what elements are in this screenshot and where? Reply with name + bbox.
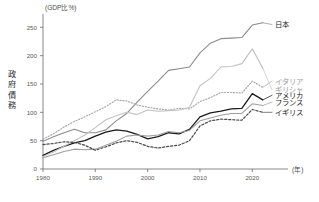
x-tick-label: 1990 xyxy=(88,174,102,181)
series-label-フランス: フランス xyxy=(275,98,303,107)
y-axis-title-char: 務 xyxy=(8,100,17,110)
series-line-4 xyxy=(43,104,263,158)
y-tick-label: 200 xyxy=(27,52,38,59)
x-tick-label: 1980 xyxy=(36,174,50,181)
series-label-日本: 日本 xyxy=(275,20,290,29)
series-line-0 xyxy=(43,23,263,141)
chart-canvas: 05010015020025019801990200020102020 日本アメ… xyxy=(0,0,319,202)
y-axis-unit-label: (GDP比%) xyxy=(45,3,77,12)
x-axis-unit-label: (年) xyxy=(292,165,303,174)
series-label-イギリス: イギリス xyxy=(275,108,303,117)
y-tick-label: 50 xyxy=(30,137,37,144)
series-group xyxy=(43,23,263,158)
series-leader-0 xyxy=(263,23,272,25)
y-tick-label: 250 xyxy=(27,24,38,31)
series-leader-4 xyxy=(263,102,272,105)
series-line-1 xyxy=(43,94,263,156)
series-label-ギリシャ: ギリシャ xyxy=(275,85,303,94)
gdp-debt-line-chart: 05010015020025019801990200020102020 日本アメ… xyxy=(0,0,319,202)
y-tick-label: 100 xyxy=(27,109,38,116)
y-axis-title-char: 政 xyxy=(8,69,16,79)
x-tick-label: 2010 xyxy=(193,174,207,181)
x-tick-label: 2020 xyxy=(245,174,259,181)
series-labels-group: 日本アメリカイタリアギリシャフランスイギリス xyxy=(263,20,303,117)
x-tick-label: 2000 xyxy=(141,174,155,181)
y-tick-label: 150 xyxy=(27,80,38,87)
y-axis-title-char: 債 xyxy=(8,90,16,100)
series-line-3 xyxy=(43,49,263,157)
series-leader-1 xyxy=(263,95,272,100)
y-axis-title-char: 府 xyxy=(8,79,16,89)
y-tick-label: 0 xyxy=(34,165,38,172)
